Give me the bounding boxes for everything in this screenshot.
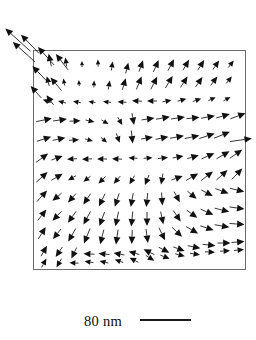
arrow-shaft xyxy=(51,158,55,160)
arrow-shaft xyxy=(172,227,177,232)
arrow-head xyxy=(117,118,122,124)
arrow-shaft xyxy=(36,158,42,162)
arrow-shaft xyxy=(202,156,208,159)
field-arrow xyxy=(170,134,184,141)
arrow-shaft xyxy=(201,209,207,212)
arrow-head xyxy=(39,227,46,235)
arrow-head xyxy=(47,54,54,62)
arrow-head xyxy=(137,60,143,68)
field-arrow xyxy=(141,135,153,142)
arrow-head xyxy=(223,240,230,247)
arrow-head xyxy=(67,156,74,162)
arrow-head xyxy=(100,260,106,265)
field-arrow xyxy=(142,116,155,123)
arrow-head xyxy=(39,209,46,217)
arrow-shaft xyxy=(186,177,192,180)
field-arrow xyxy=(36,154,48,163)
arrow-shaft xyxy=(228,65,230,67)
field-arrow xyxy=(201,190,212,196)
field-arrow xyxy=(71,248,77,259)
arrow-head xyxy=(220,188,228,194)
figure-canvas: 80 nm xyxy=(0,0,256,340)
arrow-head xyxy=(189,191,197,198)
arrow-head xyxy=(129,136,136,144)
arrow-shaft xyxy=(217,155,224,159)
arrow-shaft xyxy=(160,255,163,256)
field-arrow xyxy=(190,251,200,257)
arrow-shaft xyxy=(38,215,42,220)
field-arrow xyxy=(163,99,172,104)
field-arrow xyxy=(158,212,165,225)
arrow-shaft xyxy=(55,83,61,90)
arrow-head xyxy=(190,174,198,181)
field-arrow xyxy=(158,155,168,161)
field-arrow xyxy=(175,252,185,258)
field-arrow xyxy=(77,80,81,86)
arrow-head xyxy=(189,211,197,218)
field-arrow xyxy=(145,175,151,185)
arrow-head xyxy=(89,100,94,104)
field-arrow xyxy=(188,243,201,250)
arrow-head xyxy=(62,79,66,84)
arrow-shaft xyxy=(174,192,176,196)
arrow-shaft xyxy=(122,85,123,89)
field-arrow xyxy=(41,259,47,268)
field-arrow xyxy=(187,115,200,122)
field-arrow xyxy=(45,76,51,86)
field-arrow xyxy=(97,156,107,162)
field-arrow xyxy=(230,205,245,212)
arrow-shaft xyxy=(73,194,76,197)
arrow-head xyxy=(64,58,69,64)
arrow-head xyxy=(222,113,230,120)
field-arrow xyxy=(32,66,47,82)
field-arrow xyxy=(68,194,76,203)
arrow-shaft xyxy=(215,189,221,191)
arrow-shaft xyxy=(58,229,61,233)
arrow-shaft xyxy=(36,120,44,122)
field-arrow xyxy=(99,230,106,245)
field-arrow xyxy=(114,230,121,245)
arrow-head xyxy=(161,155,168,161)
field-arrow xyxy=(70,260,79,265)
arrow-head xyxy=(59,117,67,124)
arrow-shaft xyxy=(41,252,43,256)
field-arrow xyxy=(109,62,114,71)
field-arrow xyxy=(220,248,230,254)
field-arrow xyxy=(178,98,187,103)
arrow-head xyxy=(205,171,213,178)
arrow-shaft xyxy=(230,207,238,208)
field-arrow xyxy=(92,81,96,88)
arrow-head xyxy=(97,156,103,162)
arrow-head xyxy=(82,156,89,162)
arrow-head xyxy=(182,60,189,68)
field-arrow xyxy=(173,211,180,222)
arrow-head xyxy=(58,100,64,105)
arrow-head xyxy=(226,77,232,83)
arrow-head xyxy=(55,174,63,181)
field-arrow xyxy=(173,154,184,160)
arrow-head xyxy=(57,136,65,143)
field-arrow xyxy=(38,209,47,220)
arrow-shaft xyxy=(230,188,237,190)
field-arrow xyxy=(201,171,213,180)
arrow-shaft xyxy=(187,118,193,119)
arrow-head xyxy=(115,136,121,143)
arrow-head xyxy=(129,236,136,244)
arrow-shaft xyxy=(216,175,222,180)
arrow-shaft xyxy=(87,211,91,218)
field-arrow xyxy=(217,151,230,159)
arrow-shaft xyxy=(126,69,127,73)
field-arrow xyxy=(182,60,189,70)
arrow-head xyxy=(40,154,48,161)
field-arrow xyxy=(114,176,120,184)
field-arrow xyxy=(205,249,215,255)
arrow-head xyxy=(68,233,75,241)
arrow-shaft xyxy=(72,211,76,216)
arrow-head xyxy=(43,136,51,142)
arrow-head xyxy=(80,61,84,65)
field-arrow xyxy=(137,60,143,71)
field-arrow xyxy=(136,77,142,90)
arrow-shaft xyxy=(53,120,60,121)
arrow-head xyxy=(103,100,109,105)
arrow-head xyxy=(224,248,231,254)
